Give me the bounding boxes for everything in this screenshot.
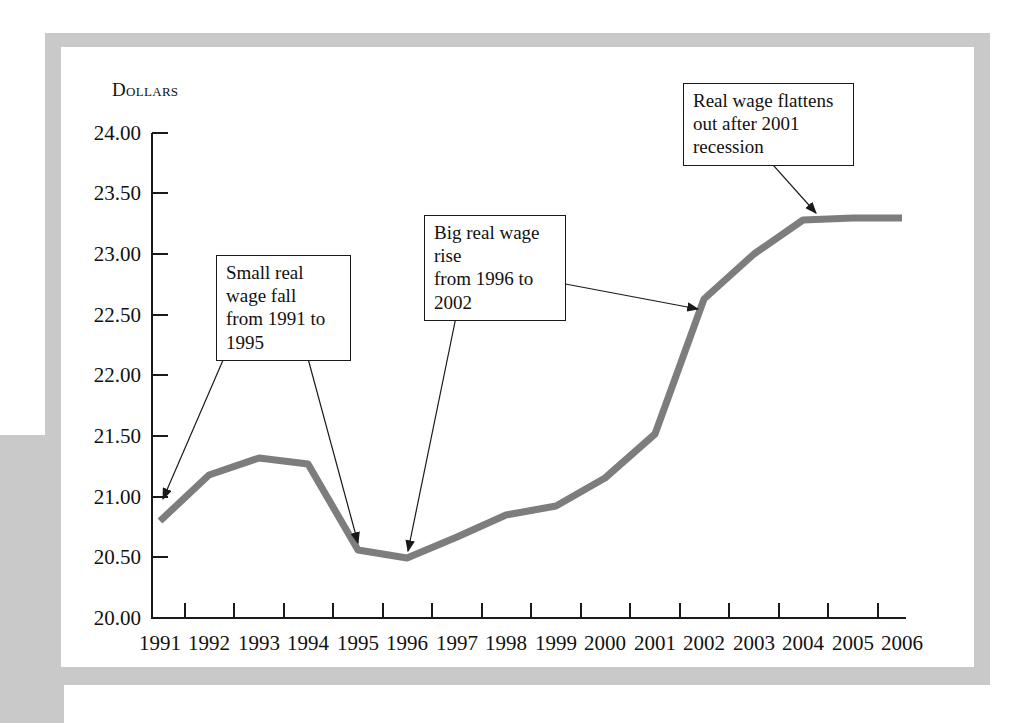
line-chart: Dollars 24.00 23.50 23.00 22.50 22.00 21… xyxy=(61,47,974,667)
figure-root: Dollars 24.00 23.50 23.00 22.50 22.00 21… xyxy=(0,0,1020,723)
axes xyxy=(152,133,906,618)
annotation-big-rise: Big real wage rise from 1996 to 2002 xyxy=(424,215,566,321)
annotation-flatten: Real wage flattens out after 2001 recess… xyxy=(683,83,854,166)
x-ticks xyxy=(185,603,878,618)
annotation-small-fall: Small real wage fall from 1991 to 1995 xyxy=(216,255,351,361)
